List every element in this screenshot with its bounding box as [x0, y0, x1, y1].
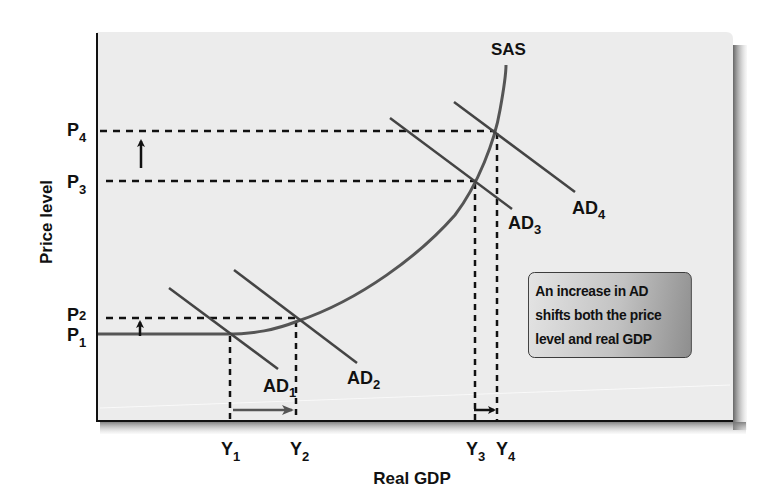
- callout-line-3: level and real GDP: [535, 327, 690, 351]
- x-axis-title: Real GDP: [373, 469, 450, 488]
- panel-shadow-bottom: [100, 422, 746, 434]
- annotation-callout: An increase in AD shifts both the price …: [528, 272, 692, 358]
- panel-shadow-right: [733, 45, 747, 430]
- p4-label: P4: [67, 120, 87, 145]
- y3-label: Y3: [466, 439, 485, 464]
- y4-label: Y4: [496, 439, 516, 464]
- y2-label: Y2: [290, 439, 309, 464]
- y-axis-title: Price level: [37, 180, 56, 264]
- p1-label: P1: [67, 325, 86, 350]
- callout-line-2: shifts both the price: [535, 303, 690, 327]
- chart-panel: [97, 32, 733, 421]
- p2-label: P2: [67, 305, 86, 325]
- ad-shift-chart: SAS AD1 AD2 AD3 AD4 P4 P3 P2 P1 Y1 Y2 Y3…: [0, 0, 781, 504]
- p3-label: P3: [67, 172, 86, 197]
- callout-line-1: An increase in AD: [535, 279, 690, 303]
- sas-label: SAS: [491, 40, 526, 59]
- y1-label: Y1: [221, 439, 240, 464]
